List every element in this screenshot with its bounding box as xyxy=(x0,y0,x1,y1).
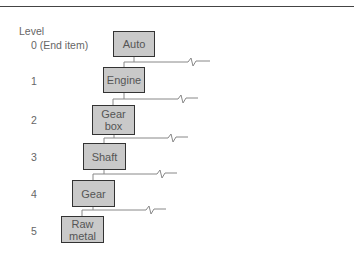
item-box-engine: Engine xyxy=(103,67,145,93)
item-box-shaft: Shaft xyxy=(83,143,126,170)
item-box-raw-metal: Raw metal xyxy=(61,216,104,243)
item-box-auto: Auto xyxy=(113,31,155,57)
connector-lines xyxy=(0,0,358,254)
item-label: Raw metal xyxy=(69,218,96,242)
item-box-gear-box: Gear box xyxy=(92,105,135,135)
item-label: Gear box xyxy=(101,108,125,132)
item-label: Auto xyxy=(123,38,146,50)
item-label: Engine xyxy=(107,74,141,86)
item-label: Shaft xyxy=(92,151,118,163)
item-label: Gear xyxy=(81,188,105,200)
item-box-gear: Gear xyxy=(72,180,115,207)
